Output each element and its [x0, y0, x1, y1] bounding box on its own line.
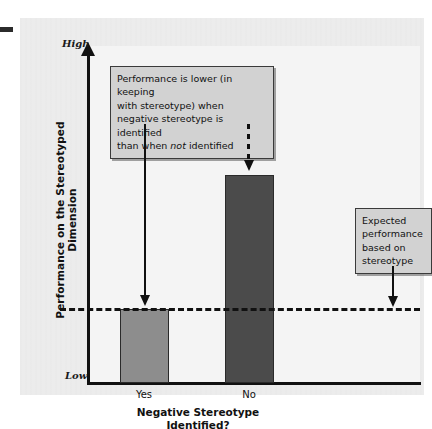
- arrow-to-yes-bar-head-icon: [140, 295, 150, 306]
- expected-performance-note: Expected performance based on stereotype: [355, 208, 432, 274]
- arrow-to-no-bar-shaft: [247, 124, 250, 160]
- x-axis-title-line-1: Negative Stereotype: [88, 406, 308, 419]
- x-axis-title: Negative Stereotype Identified?: [88, 406, 308, 429]
- figure-panel: High Low Performance on the Stereotyped …: [20, 18, 424, 395]
- note-line-4-b: identified: [186, 140, 234, 151]
- y-axis-low-label: Low: [65, 370, 87, 381]
- x-tick-label-no: No: [209, 389, 289, 400]
- arrow-to-yes-bar-shaft: [144, 124, 146, 296]
- expected-note-line-1: Expected: [362, 214, 425, 227]
- x-tick-label-yes: Yes: [104, 389, 184, 400]
- arrow-to-reference-line-shaft: [392, 266, 394, 297]
- note-line-4: than when not identified: [117, 139, 267, 152]
- expected-note-line-3: based on: [362, 241, 425, 254]
- y-axis-line: [87, 54, 90, 384]
- page-edge-mark: [0, 27, 13, 32]
- note-line-1: Performance is lower (in keeping: [117, 72, 267, 99]
- note-line-2: with stereotype) when: [117, 99, 267, 112]
- bar-yes: [120, 309, 169, 383]
- y-axis-high-label: High: [62, 38, 90, 49]
- note-line-4-emphasis: not: [170, 140, 186, 151]
- arrow-to-no-bar-head-icon: [244, 160, 254, 171]
- expected-performance-line: [60, 308, 420, 311]
- note-line-3: negative stereotype is identified: [117, 112, 267, 139]
- bar-no: [225, 175, 274, 383]
- x-axis-title-line-2: Identified?: [88, 419, 308, 429]
- y-axis-title: Performance on the Stereotyped Dimension: [54, 100, 78, 340]
- arrow-to-reference-line-head-icon: [388, 296, 398, 307]
- expected-note-line-2: performance: [362, 227, 425, 240]
